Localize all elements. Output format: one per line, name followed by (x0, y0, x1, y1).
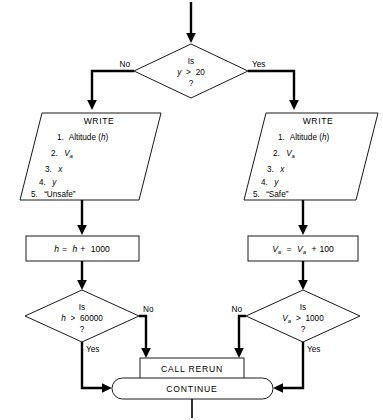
branch-no-left-label: No (143, 305, 154, 314)
decision-top[interactable]: Is y > 20 ? (134, 44, 248, 98)
decision-left-value: 60000 (80, 314, 103, 323)
branch-yes-right-label: Yes (307, 345, 320, 354)
branch-yes-top-arrowhead (289, 100, 299, 110)
write-right-item-5: 5. “Safe” (253, 190, 289, 199)
decision-right-value: 1000 (305, 314, 324, 323)
write-box-left[interactable]: WRITE 1. Altitude (h) 2. Va 3. x 4. y 5.… (20, 113, 161, 200)
continue-terminator[interactable]: CONTINUE (112, 378, 273, 399)
connector-processright-to-decisionright (298, 261, 308, 290)
decision-left[interactable]: Is h > 60000 ? (25, 290, 139, 342)
decision-top-condition: y > 20 (176, 68, 205, 77)
write-left-item-4: 4. y (39, 178, 57, 187)
branch-no-left: No (139, 305, 154, 358)
branch-no-top-label: No (120, 60, 131, 69)
branch-yes-right: Yes (273, 342, 320, 393)
connector-processleft-to-decisionleft (77, 261, 87, 290)
process-left-text: h= h+ 1000 (54, 244, 110, 254)
connector-writeleft-to-processleft (77, 200, 87, 235)
decision-top-value: 20 (196, 68, 206, 77)
connector-writeright-to-processright (298, 200, 308, 235)
decision-right-op: > (296, 314, 301, 323)
decision-left-condition: h > 60000 (61, 314, 103, 323)
branch-no-right-label: No (232, 305, 243, 314)
decision-top-line1: Is (188, 57, 194, 66)
entry-arrowhead (186, 33, 196, 43)
write-left-item-1: 1. Altitude (h) (57, 133, 109, 142)
decision-right-line3: ? (301, 325, 306, 334)
write-left-item-3: 3. x (45, 165, 63, 174)
process-box-left[interactable]: h= h+ 1000 (26, 236, 139, 261)
branch-no-right: No (232, 305, 246, 358)
branch-no-top-arrowhead (87, 100, 97, 110)
branch-yes-top: Yes (248, 60, 299, 110)
decision-right-line1: Is (300, 303, 306, 312)
entry-connector (186, 2, 196, 43)
call-rerun-box[interactable]: CALL RERUN (140, 358, 244, 380)
decision-top-var: y (176, 68, 182, 77)
branch-yes-top-label: Yes (252, 60, 265, 69)
decision-left-op: > (70, 314, 75, 323)
decision-top-op: > (186, 68, 191, 77)
process-box-right[interactable]: Va = Va +100 (248, 236, 358, 261)
decision-left-line1: Is (79, 303, 85, 312)
continue-text: CONTINUE (166, 384, 217, 394)
decision-right[interactable]: Is Va > 1000 ? (246, 290, 360, 342)
write-right-item-1: 1. Altitude (h) (278, 133, 330, 142)
write-right-item-3: 3. x (267, 165, 285, 174)
branch-yes-left: Yes (82, 342, 112, 393)
branch-yes-left-label: Yes (86, 345, 99, 354)
write-right-item-4: 4. y (261, 178, 279, 187)
flowchart-svg: Is y > 20 ? No Yes WRITE 1. Altitude (h)… (0, 0, 383, 420)
decision-left-line3: ? (80, 325, 85, 334)
write-right-header: WRITE (303, 116, 334, 126)
decision-left-var: h (61, 314, 66, 323)
write-left-header: WRITE (84, 116, 115, 126)
decision-top-line3: ? (189, 79, 194, 88)
branch-no-top: No (87, 60, 134, 110)
write-box-right[interactable]: WRITE 1. Altitude (h) 2. Va 3. x 4. y 5.… (244, 113, 378, 200)
call-rerun-text: CALL RERUN (161, 364, 223, 374)
flowchart-canvas: Is y > 20 ? No Yes WRITE 1. Altitude (h)… (0, 0, 383, 420)
write-left-item-5: 5. “Unsafe” (31, 190, 76, 199)
